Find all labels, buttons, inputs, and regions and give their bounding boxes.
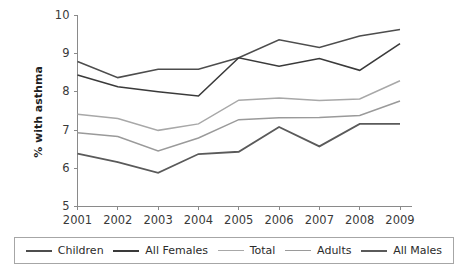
legend-item-adults[interactable]: Adults (285, 244, 351, 257)
chart-svg: 5678910 % with asthma 200120022003200420… (0, 0, 470, 230)
x-tick-label: 2002 (103, 213, 132, 227)
legend-swatch-icon (26, 250, 52, 252)
x-tick-label: 2009 (385, 213, 414, 227)
legend-label: All Females (145, 244, 208, 257)
x-axis: 200120022003200420052006200720082009 (63, 206, 415, 227)
legend-swatch-icon (361, 250, 387, 252)
y-tick-label: 6 (62, 161, 69, 175)
series-line-children (78, 30, 401, 78)
legend-item-children[interactable]: Children (26, 244, 104, 257)
y-axis-title: % with asthma (32, 66, 45, 158)
plot-area: 5678910 % with asthma 200120022003200420… (0, 0, 470, 230)
x-tick-label: 2006 (264, 213, 293, 227)
legend-swatch-icon (113, 250, 139, 252)
chart-legend: ChildrenAll FemalesTotalAdultsAll Males (14, 237, 454, 264)
legend-label: Children (58, 244, 104, 257)
legend-item-all-males[interactable]: All Males (361, 244, 442, 257)
x-tick-label: 2004 (184, 213, 213, 227)
x-tick-group: 200120022003200420052006200720082009 (63, 206, 415, 227)
y-tick-label: 10 (55, 8, 70, 22)
y-tick-label: 5 (62, 199, 69, 213)
legend-label: Total (250, 244, 276, 257)
asthma-line-chart: 5678910 % with asthma 200120022003200420… (0, 0, 470, 276)
x-tick-label: 2007 (305, 213, 334, 227)
x-tick-label: 2008 (345, 213, 374, 227)
y-tick-label: 7 (62, 123, 69, 137)
legend-swatch-icon (285, 250, 311, 251)
legend-swatch-icon (218, 250, 244, 251)
x-tick-label: 2003 (143, 213, 172, 227)
legend-label: All Males (393, 244, 442, 257)
y-tick-label: 8 (62, 84, 69, 98)
y-axis: 5678910 % with asthma (32, 8, 78, 213)
series-line-all-males (78, 124, 401, 173)
x-tick-label: 2001 (63, 213, 92, 227)
legend-label: Adults (317, 244, 351, 257)
series-line-adults (78, 101, 401, 151)
series-line-all-females (78, 44, 401, 96)
y-tick-label: 9 (62, 46, 69, 60)
legend-item-all-females[interactable]: All Females (113, 244, 208, 257)
x-tick-label: 2005 (224, 213, 253, 227)
y-tick-group: 5678910 (55, 8, 78, 213)
series-group (78, 30, 401, 173)
legend-item-total[interactable]: Total (218, 244, 276, 257)
